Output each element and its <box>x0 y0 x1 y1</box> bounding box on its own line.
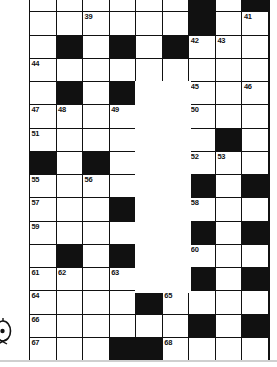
fillable-square[interactable] <box>215 197 243 221</box>
fillable-square[interactable]: 47 <box>29 104 57 128</box>
fillable-square[interactable]: 53 <box>215 151 243 175</box>
fillable-square[interactable] <box>29 244 57 268</box>
fillable-square[interactable] <box>56 221 84 245</box>
fillable-square[interactable] <box>215 11 243 35</box>
fillable-square[interactable] <box>56 314 84 338</box>
fillable-square[interactable]: 43 <box>215 35 243 59</box>
fillable-square[interactable] <box>241 244 269 268</box>
fillable-square[interactable]: 64 <box>29 290 57 314</box>
fillable-square[interactable] <box>82 104 110 128</box>
fillable-square[interactable] <box>135 35 163 59</box>
fillable-square[interactable] <box>162 314 190 338</box>
fillable-square[interactable] <box>215 81 243 105</box>
fillable-square[interactable] <box>188 128 216 152</box>
fillable-square[interactable]: 68 <box>162 337 190 361</box>
fillable-square[interactable]: 44 <box>29 58 57 82</box>
fillable-square[interactable] <box>56 151 84 175</box>
fillable-square[interactable] <box>82 337 110 361</box>
fillable-square[interactable] <box>82 244 110 268</box>
fillable-square[interactable]: 39 <box>82 11 110 35</box>
fillable-square[interactable] <box>162 58 190 82</box>
fillable-square[interactable] <box>241 197 269 221</box>
fillable-square[interactable] <box>215 104 243 128</box>
fillable-square[interactable] <box>56 197 84 221</box>
fillable-square[interactable] <box>241 35 269 59</box>
fillable-square[interactable] <box>29 11 57 35</box>
fillable-square[interactable] <box>135 11 163 35</box>
fillable-square[interactable] <box>215 221 243 245</box>
fillable-square[interactable] <box>29 81 57 105</box>
block-square <box>109 337 137 361</box>
fillable-square[interactable]: 49 <box>109 104 137 128</box>
fillable-square[interactable]: 57 <box>29 197 57 221</box>
fillable-square[interactable] <box>215 267 243 291</box>
fillable-square[interactable] <box>135 314 163 338</box>
fillable-square[interactable] <box>82 81 110 105</box>
fillable-square[interactable]: 45 <box>188 81 216 105</box>
fillable-square[interactable] <box>241 104 269 128</box>
clue-number: 44 <box>32 59 40 68</box>
fillable-square[interactable] <box>82 314 110 338</box>
fillable-square[interactable] <box>82 221 110 245</box>
fillable-square[interactable]: 52 <box>188 151 216 175</box>
fillable-square[interactable] <box>135 58 163 82</box>
fillable-square[interactable] <box>82 128 110 152</box>
fillable-square[interactable] <box>188 337 216 361</box>
fillable-square[interactable]: 61 <box>29 267 57 291</box>
fillable-square[interactable] <box>215 174 243 198</box>
fillable-square[interactable] <box>241 290 269 314</box>
fillable-square[interactable] <box>82 290 110 314</box>
fillable-square[interactable] <box>241 151 269 175</box>
fillable-square[interactable] <box>82 35 110 59</box>
fillable-square[interactable]: 62 <box>56 267 84 291</box>
clue-number: 52 <box>191 152 199 161</box>
fillable-square[interactable] <box>109 128 137 152</box>
fillable-square[interactable] <box>241 128 269 152</box>
fillable-square[interactable] <box>109 151 137 175</box>
fillable-square[interactable]: 60 <box>188 244 216 268</box>
fillable-square[interactable] <box>109 58 137 82</box>
fillable-square[interactable] <box>56 11 84 35</box>
fillable-square[interactable]: 59 <box>29 221 57 245</box>
fillable-square[interactable] <box>109 11 137 35</box>
fillable-square[interactable] <box>241 337 269 361</box>
fillable-square[interactable] <box>82 197 110 221</box>
fillable-square[interactable] <box>109 314 137 338</box>
fillable-square[interactable] <box>215 290 243 314</box>
fillable-square[interactable]: 48 <box>56 104 84 128</box>
fillable-square[interactable] <box>215 314 243 338</box>
fillable-square[interactable] <box>241 58 269 82</box>
fillable-square[interactable]: 42 <box>188 35 216 59</box>
fillable-square[interactable] <box>109 174 137 198</box>
fillable-square[interactable] <box>56 128 84 152</box>
fillable-square[interactable] <box>109 290 137 314</box>
fillable-square[interactable] <box>82 267 110 291</box>
fillable-square[interactable]: 46 <box>241 81 269 105</box>
fillable-square[interactable]: 51 <box>29 128 57 152</box>
fillable-square[interactable] <box>109 221 137 245</box>
block-square <box>109 35 137 59</box>
fillable-square[interactable] <box>82 58 110 82</box>
fillable-square[interactable]: 41 <box>241 11 269 35</box>
clue-number: 51 <box>32 129 40 138</box>
fillable-square[interactable]: 63 <box>109 267 137 291</box>
fillable-square[interactable] <box>29 35 57 59</box>
fillable-square[interactable]: 66 <box>29 314 57 338</box>
fillable-square[interactable] <box>56 58 84 82</box>
fillable-square[interactable] <box>215 244 243 268</box>
fillable-square[interactable] <box>56 174 84 198</box>
fillable-square[interactable] <box>56 337 84 361</box>
fillable-square[interactable]: 55 <box>29 174 57 198</box>
fillable-square[interactable] <box>188 58 216 82</box>
fillable-square[interactable]: 58 <box>188 197 216 221</box>
fillable-square[interactable] <box>215 337 243 361</box>
fillable-square[interactable] <box>188 290 216 314</box>
fillable-square[interactable]: 50 <box>188 104 216 128</box>
fillable-square[interactable] <box>56 290 84 314</box>
fillable-square[interactable] <box>162 11 190 35</box>
fillable-square[interactable]: 65 <box>162 290 190 314</box>
fillable-square[interactable] <box>215 58 243 82</box>
fillable-square[interactable]: 56 <box>82 174 110 198</box>
clue-number: 45 <box>191 82 199 91</box>
fillable-square[interactable]: 67 <box>29 337 57 361</box>
